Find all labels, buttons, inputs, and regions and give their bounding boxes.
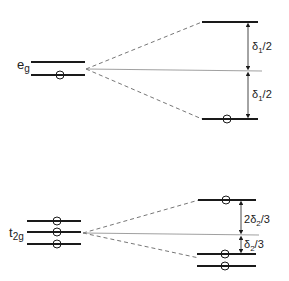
t2g-dashed-upper — [83, 200, 199, 233]
t2g-group: t2g 2δ2/3 δ2/3 — [9, 196, 270, 270]
eg-group: eg δ1/2 δ1/2 — [17, 22, 272, 123]
energy-level-diagram: eg δ1/2 δ1/2 t2g — [0, 0, 289, 281]
t2g-label: t2g — [9, 225, 24, 242]
eg-barycenter-line — [86, 69, 262, 71]
eg-dashed-lower — [86, 69, 202, 119]
t2g-barycenter-line — [83, 233, 259, 235]
t2g-lower-split-label: δ2/3 — [244, 238, 264, 253]
eg-dashed-upper — [86, 22, 202, 69]
t2g-dashed-lower — [83, 233, 199, 258]
eg-label: eg — [17, 57, 30, 74]
eg-lower-split-label: δ1/2 — [252, 88, 272, 103]
t2g-upper-split-label: 2δ2/3 — [244, 213, 270, 228]
eg-upper-split-label: δ1/2 — [252, 40, 272, 55]
